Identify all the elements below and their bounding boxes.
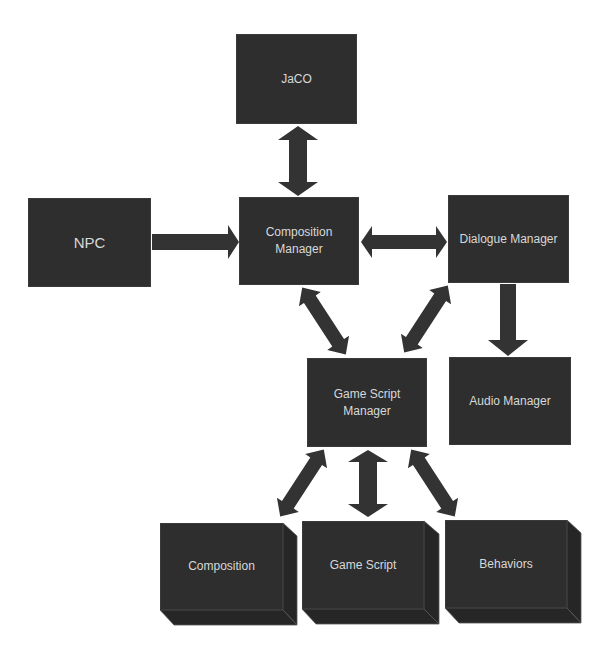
node-dialogue-manager: Dialogue Manager	[448, 195, 569, 283]
node-label: Audio Manager	[469, 393, 550, 410]
arrow-dialogue-audio-manager	[488, 284, 528, 356]
arrow-gamescript-manager-composition	[269, 442, 334, 523]
node-audio-manager: Audio Manager	[449, 357, 571, 445]
node-label: Dialogue Manager	[459, 231, 557, 248]
composition-box-bottom	[160, 610, 297, 625]
arrow-dialogue-gamescript-manager	[393, 278, 458, 359]
node-label: Game Script Manager	[334, 386, 401, 420]
behaviors-box-bottom	[445, 608, 581, 623]
node-behaviors: Behaviors	[445, 520, 567, 608]
behaviors-box-side	[567, 520, 581, 623]
node-jaco: JaCO	[236, 34, 357, 124]
node-label: Behaviors	[479, 556, 532, 573]
arrow-npc-composition-manager	[152, 225, 239, 259]
node-label: NPC	[74, 234, 106, 251]
node-label: JaCO	[281, 71, 312, 88]
node-label: Composition	[188, 558, 255, 575]
composition-box-side	[283, 523, 297, 625]
arrow-composition-dialogue-manager	[361, 226, 447, 258]
game-script-box-side	[424, 521, 439, 624]
game-script-box-bottom	[302, 609, 439, 624]
node-game-script: Game Script	[302, 521, 424, 609]
arrow-gamescript-manager-gamescript	[348, 450, 388, 517]
node-label: Game Script	[330, 557, 397, 574]
node-npc: NPC	[28, 198, 151, 287]
arrow-gamescript-manager-behaviors	[400, 442, 465, 523]
arrow-jaco-composition-manager	[278, 126, 318, 196]
node-composition-manager: Composition Manager	[239, 197, 359, 285]
arrow-composition-gamescript-manager	[291, 280, 356, 361]
node-label: Composition Manager	[266, 224, 333, 258]
node-composition: Composition	[160, 523, 283, 610]
node-game-script-manager: Game Script Manager	[307, 358, 427, 447]
